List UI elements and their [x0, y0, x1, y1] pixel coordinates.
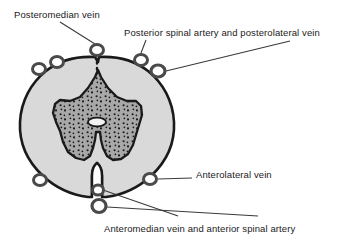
- leader-anterolateral-vein: [158, 178, 192, 179]
- label-posterior-spinal-artery-and-posterolateral-vein: Posterior spinal artery and posterolater…: [124, 28, 320, 38]
- posterolateral-vein-ring: [151, 65, 165, 77]
- posterolateral-vessel-ring-left-outer: [33, 64, 46, 75]
- central-canal: [88, 118, 106, 127]
- spinal-cord-diagram-figure: Posteromedian vein Posterior spinal arte…: [0, 0, 357, 244]
- anterolateral-vein-ring-right: [144, 174, 157, 185]
- label-posteromedian-vein: Posteromedian vein: [14, 10, 100, 20]
- anterior-spinal-artery-ring: [92, 200, 106, 213]
- leader-posteromedian: [60, 22, 95, 44]
- leader-anterior-spinal-artery: [107, 207, 258, 216]
- label-anterolateral-vein: Anterolateral vein: [196, 170, 272, 180]
- anteromedian-vein-ring: [93, 185, 104, 195]
- posterior-spinal-artery-ring: [135, 55, 148, 66]
- leader-posterolateral-vein: [166, 41, 290, 71]
- posterolateral-vessel-ring-left-inner: [51, 57, 64, 68]
- label-anteromedian-vein-and-anterior-spinal-artery: Anteromedian vein and anterior spinal ar…: [104, 224, 295, 234]
- leader-posterior-spinal-artery: [141, 40, 146, 53]
- leader-anteromedian-vein: [103, 190, 178, 216]
- posteromedian-vein-ring: [91, 45, 104, 56]
- anterolateral-vein-ring-left: [34, 175, 47, 186]
